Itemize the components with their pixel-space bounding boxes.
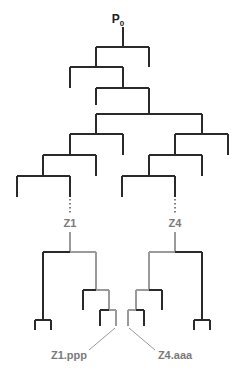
branch	[70, 134, 123, 155]
leaf-label-z1ppp: Z1.ppp	[51, 349, 87, 361]
root-label: P0	[112, 12, 125, 28]
branch	[96, 27, 149, 67]
tree-diagram: P0 Z1 Z4	[0, 0, 246, 375]
branch	[122, 176, 175, 197]
z1-subtree	[35, 232, 116, 330]
leader-lines	[89, 328, 155, 350]
z4-label: Z4	[169, 217, 183, 229]
branch	[149, 155, 202, 176]
branch	[96, 114, 202, 134]
branch	[43, 155, 96, 176]
z4-subtree	[128, 232, 210, 330]
upper-tree	[17, 27, 228, 197]
branch	[17, 176, 70, 197]
branch	[70, 67, 123, 88]
leaf-label-z4aaa: Z4.aaa	[158, 349, 193, 361]
branch	[96, 88, 149, 114]
z1-label: Z1	[64, 217, 77, 229]
ellipsis-lines	[70, 199, 175, 214]
branch	[175, 134, 228, 155]
